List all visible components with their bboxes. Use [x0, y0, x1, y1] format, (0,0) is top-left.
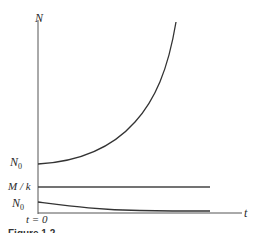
origin-label: t = 0: [26, 214, 47, 225]
x-axis-label: t: [244, 207, 247, 219]
upper-n0-label: N0: [10, 156, 22, 171]
exponential-growth-curve: [38, 22, 176, 164]
figure-caption: Figure 1.2: [8, 228, 55, 233]
upper-n0-sub: 0: [18, 162, 22, 171]
lower-n0-label: N0: [12, 197, 24, 212]
upper-n0-main: N: [10, 155, 18, 169]
diagram-figure: [0, 0, 256, 233]
equilibrium-label: M / k: [8, 181, 31, 192]
decay-curve: [38, 202, 210, 211]
y-axis-label: N: [35, 12, 43, 24]
lower-n0-sub: 0: [20, 203, 24, 212]
lower-n0-main: N: [12, 196, 20, 210]
